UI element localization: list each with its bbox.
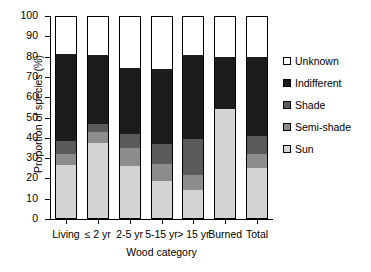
legend-item-indifferent: Indifferent xyxy=(283,72,369,94)
x-axis-tick xyxy=(257,219,258,224)
y-axis-tick: 70 xyxy=(45,77,50,78)
legend-swatch xyxy=(283,79,291,87)
x-axis-tick xyxy=(162,219,163,224)
legend-swatch xyxy=(283,101,291,109)
y-axis-tick-label: 30 xyxy=(12,151,38,163)
y-axis-tick-label: 20 xyxy=(12,171,38,183)
x-axis-tick xyxy=(225,219,226,224)
x-axis-tick xyxy=(98,219,99,224)
bar-5-15-yr xyxy=(151,16,173,219)
segment-shade xyxy=(56,141,76,154)
bar-burned xyxy=(214,16,236,219)
segment-unknown xyxy=(56,16,76,54)
segment-sun xyxy=(120,166,140,219)
segment-semi-shade xyxy=(247,154,267,168)
legend-item-unknown: Unknown xyxy=(283,50,369,72)
y-axis-tick-label: 0 xyxy=(12,212,38,224)
y-axis-tick: 30 xyxy=(45,158,50,159)
y-axis-tick-label: 50 xyxy=(12,111,38,123)
segment-indifferent xyxy=(56,54,76,141)
y-axis-tick-label: 10 xyxy=(12,192,38,204)
segment-indifferent xyxy=(152,69,172,144)
bar-total xyxy=(246,16,268,219)
segment-shade xyxy=(88,124,108,132)
legend-swatch xyxy=(283,57,291,65)
legend-item-semi-shade: Semi-shade xyxy=(283,116,369,138)
segment-unknown xyxy=(152,16,172,69)
legend-swatch xyxy=(283,123,291,131)
x-axis-tick xyxy=(193,219,194,224)
segment-unknown xyxy=(88,16,108,55)
plot-area: 1009080706050403020100 xyxy=(50,16,273,219)
segment-indifferent xyxy=(247,57,267,136)
segment-sun xyxy=(247,168,267,219)
y-axis-tick: 0 xyxy=(45,219,50,220)
segment-sun xyxy=(152,181,172,219)
y-axis-tick: 40 xyxy=(45,138,50,139)
bar-15-yr xyxy=(182,16,204,219)
x-axis-title: Wood category xyxy=(50,246,273,258)
y-axis-line xyxy=(50,16,51,219)
legend-item-shade: Shade xyxy=(283,94,369,116)
legend-label: Unknown xyxy=(295,55,339,67)
segment-indifferent xyxy=(120,68,140,134)
segment-semi-shade xyxy=(183,175,203,189)
y-axis-tick-label: 80 xyxy=(12,50,38,62)
y-axis-tick: 90 xyxy=(45,36,50,37)
segment-shade xyxy=(152,144,172,164)
y-axis-tick-label: 70 xyxy=(12,70,38,82)
bar-living xyxy=(55,16,77,219)
segment-indifferent xyxy=(88,55,108,124)
y-axis-tick-label: 100 xyxy=(12,9,38,21)
segment-sun xyxy=(56,165,76,219)
x-axis-tick xyxy=(66,219,67,224)
legend: UnknownIndifferentShadeSemi-shadeSun xyxy=(283,50,369,160)
x-axis-tick xyxy=(130,219,131,224)
legend-label: Semi-shade xyxy=(295,121,351,133)
y-axis-tick: 20 xyxy=(45,178,50,179)
segment-unknown xyxy=(247,16,267,57)
segment-indifferent xyxy=(183,55,203,139)
segment-semi-shade xyxy=(56,154,76,165)
legend-label: Sun xyxy=(295,143,314,155)
y-axis-tick-label: 60 xyxy=(12,90,38,102)
segment-shade xyxy=(120,134,140,148)
y-axis-tick-label: 90 xyxy=(12,29,38,41)
y-axis-tick: 80 xyxy=(45,57,50,58)
segment-semi-shade xyxy=(88,132,108,143)
legend-label: Indifferent xyxy=(295,77,342,89)
bar-2-yr xyxy=(87,16,109,219)
x-axis-tick-label: Total xyxy=(227,228,287,240)
y-axis-tick: 50 xyxy=(45,118,50,119)
segment-sun xyxy=(88,143,108,219)
segment-shade xyxy=(247,136,267,154)
y-axis-tick-label: 40 xyxy=(12,131,38,143)
segment-indifferent xyxy=(215,57,235,110)
segment-sun xyxy=(183,190,203,219)
segment-unknown xyxy=(215,16,235,57)
legend-swatch xyxy=(283,145,291,153)
legend-item-sun: Sun xyxy=(283,138,369,160)
segment-sun xyxy=(215,109,235,219)
stacked-bar-chart: Proportion of species (%) 10090807060504… xyxy=(0,0,371,272)
y-axis-tick: 10 xyxy=(45,199,50,200)
segment-shade xyxy=(183,139,203,176)
segment-semi-shade xyxy=(152,164,172,181)
segment-semi-shade xyxy=(120,148,140,166)
y-axis-tick: 100 xyxy=(45,16,50,17)
y-axis-tick: 60 xyxy=(45,97,50,98)
legend-label: Shade xyxy=(295,99,325,111)
segment-unknown xyxy=(120,16,140,68)
segment-unknown xyxy=(183,16,203,55)
bar-2-5-yr xyxy=(119,16,141,219)
